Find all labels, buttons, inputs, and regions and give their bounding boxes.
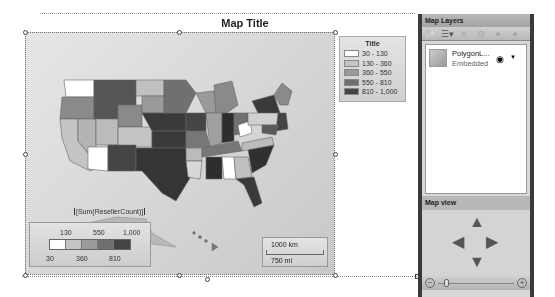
legend-row: 810 - 1,000 [344,87,401,97]
legend-swatch [344,50,359,57]
legend-row: 30 - 130 [344,49,401,59]
color-scale-bottom-label: 30 [46,255,54,262]
map-title[interactable]: Map Title [195,17,295,29]
resize-handle-top-right[interactable] [333,30,338,35]
zoom-bar: − + [422,276,530,290]
color-scale-segment [98,240,114,249]
color-scale-field-label[interactable]: [Sum(ResellerCount)] [74,208,145,215]
map-view-pan-control: ▲ ◀ ▶ ▼ [422,210,530,276]
map-legend[interactable]: Title 30 - 130 130 - 360 360 - 550 550 -… [339,36,406,102]
pan-down-icon[interactable]: ▼ [469,254,485,270]
map-layers-title: Map Layers [422,14,530,27]
legend-swatch [344,88,359,95]
zoom-out-icon[interactable]: − [425,278,435,288]
layer-properties-icon[interactable]: ⚙ [475,28,487,40]
legend-title: Title [344,40,401,47]
map-layers-panel: Map Layers ✨ ☰▾ ✕ ⚙ ● ● PolygonL... Embe… [418,14,534,297]
pan-up-icon[interactable]: ▲ [469,214,485,230]
color-scale-segment [66,240,82,249]
delete-layer-icon[interactable]: ✕ [458,28,470,40]
distance-km-label: 1000 km [271,241,298,248]
color-scale-segment [50,240,66,249]
zoom-slider[interactable] [438,283,514,284]
distance-scale[interactable]: 1000 km 750 mi [262,237,328,267]
legend-row: 360 - 550 [344,68,401,78]
layer-item[interactable]: PolygonL... Embedded ◉ ▼ [426,45,526,72]
legend-label: 30 - 130 [362,50,388,57]
color-scale-bottom-label: 810 [109,255,121,262]
legend-label: 360 - 550 [362,69,392,76]
legend-swatch [344,79,359,86]
legend-row: 130 - 360 [344,59,401,69]
legend-swatch [344,69,359,76]
color-scale-top-label: 130 [60,229,72,236]
resize-handle-outer-bottom[interactable] [205,277,210,282]
map-view-title: Map view [422,196,530,210]
report-body-rule [40,13,415,14]
legend-row: 550 - 810 [344,78,401,88]
layer-source: Embedded [452,59,490,68]
distance-mi-label: 750 mi [271,257,292,264]
add-layer-icon[interactable]: ☰▾ [441,28,453,40]
color-scale-top-label: 550 [93,229,105,236]
color-scale-segment [114,240,130,249]
color-scale-bar [49,239,131,250]
distance-scale-bar [266,250,324,255]
move-layer-down-icon[interactable]: ● [509,28,521,40]
map-layers-toolbar: ✨ ☰▾ ✕ ⚙ ● ● [422,27,530,41]
resize-handle-middle-left[interactable] [23,152,28,157]
layer-name: PolygonL... [452,49,490,58]
color-scale-top-label: 1,000 [123,229,141,236]
polygon-layer-icon [429,49,447,67]
layers-list: PolygonL... Embedded ◉ ▼ [425,44,527,194]
legend-label: 810 - 1,000 [362,88,397,95]
report-body-bottom-rule [22,276,417,277]
pan-right-icon[interactable]: ▶ [486,234,498,250]
zoom-in-icon[interactable]: + [517,278,527,288]
pan-left-icon[interactable]: ◀ [452,234,464,250]
color-scale-segment [82,240,98,249]
move-layer-up-icon[interactable]: ● [492,28,504,40]
layer-menu-dropdown-icon[interactable]: ▼ [510,54,516,60]
color-scale[interactable]: 130 550 1,000 30 360 810 [29,222,151,267]
legend-label: 130 - 360 [362,60,392,67]
resize-handle-top-center[interactable] [177,30,182,35]
color-scale-bottom-label: 360 [76,255,88,262]
zoom-slider-thumb[interactable] [444,279,449,287]
legend-swatch [344,60,359,67]
layer-wizard-icon[interactable]: ✨ [424,28,436,40]
resize-handle-top-left[interactable] [23,30,28,35]
resize-handle-middle-right[interactable] [333,152,338,157]
visibility-eye-icon[interactable]: ◉ [496,54,504,64]
legend-label: 550 - 810 [362,79,392,86]
